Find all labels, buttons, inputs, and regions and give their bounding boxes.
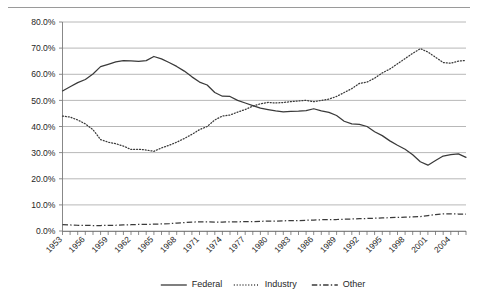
- line-chart: 0.0%10.0%20.0%30.0%40.0%50.0%60.0%70.0%8…: [0, 0, 477, 302]
- y-tick-label: 10.0%: [31, 200, 56, 210]
- x-tick-label: 1995: [363, 234, 383, 254]
- y-axis-tick-labels: 0.0%10.0%20.0%30.0%40.0%50.0%60.0%70.0%8…: [31, 17, 56, 236]
- y-tick-label: 80.0%: [31, 17, 56, 27]
- legend-label-federal: Federal: [192, 279, 223, 289]
- x-tick-label: 1998: [386, 234, 406, 254]
- x-tick-label: 1956: [66, 234, 86, 254]
- series-line-federal: [63, 56, 467, 165]
- x-tick-label: 1968: [158, 234, 178, 254]
- x-tick-label: 1989: [318, 234, 338, 254]
- x-tick-label: 1959: [89, 234, 109, 254]
- x-axis-tick-labels: 1953195619591962196519681971197419771980…: [44, 234, 453, 254]
- x-tick-label: 1986: [295, 234, 315, 254]
- x-tick-label: 1977: [226, 234, 246, 254]
- y-tick-label: 0.0%: [36, 226, 56, 236]
- chart-figure: 0.0%10.0%20.0%30.0%40.0%50.0%60.0%70.0%8…: [0, 0, 477, 302]
- x-tick-label: 1971: [181, 234, 201, 254]
- gridlines: [59, 22, 466, 231]
- legend-label-other: Other: [343, 279, 366, 289]
- x-tick-label: 1974: [204, 234, 224, 254]
- x-tick-label: 1965: [135, 234, 155, 254]
- x-tick-label: 1953: [44, 234, 64, 254]
- y-tick-label: 20.0%: [31, 174, 56, 184]
- y-tick-label: 40.0%: [31, 122, 56, 132]
- chart-legend: FederalIndustryOther: [161, 279, 366, 289]
- x-tick-label: 1983: [272, 234, 292, 254]
- y-tick-label: 70.0%: [31, 43, 56, 53]
- x-tick-label: 1992: [341, 234, 361, 254]
- series-line-industry: [63, 49, 467, 152]
- x-tick-label: 1962: [112, 234, 132, 254]
- x-tick-label: 2004: [432, 234, 452, 254]
- x-tick-label: 2001: [409, 234, 429, 254]
- y-tick-label: 60.0%: [31, 69, 56, 79]
- plot-series: [63, 49, 467, 226]
- legend-label-industry: Industry: [265, 279, 298, 289]
- y-tick-label: 30.0%: [31, 148, 56, 158]
- y-tick-label: 50.0%: [31, 96, 56, 106]
- series-line-other: [63, 214, 467, 226]
- x-tick-label: 1980: [249, 234, 269, 254]
